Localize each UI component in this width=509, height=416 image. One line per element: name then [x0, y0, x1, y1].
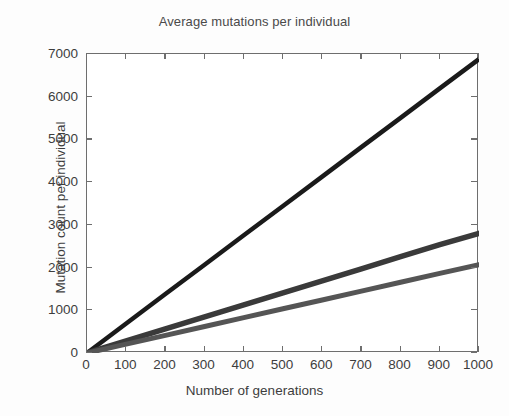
y-axis-tick-mark-right [471, 352, 477, 353]
x-axis-tick-mark [164, 346, 165, 352]
y-axis-tick-mark [86, 224, 92, 225]
plot-svg [87, 54, 479, 353]
x-axis-tick-mark [321, 346, 322, 352]
x-axis-tick-mark-top [439, 53, 440, 59]
y-axis-tick-mark [86, 267, 92, 268]
x-axis-title: Number of generations [0, 383, 509, 398]
y-axis-tick-label: 6000 [8, 88, 78, 103]
x-axis-tick-mark [360, 346, 361, 352]
series-line [87, 233, 479, 353]
x-axis-tick-mark-top [478, 53, 479, 59]
x-axis-tick-mark [439, 346, 440, 352]
y-axis-tick-label: 1000 [8, 302, 78, 317]
y-axis-tick-mark [86, 352, 92, 353]
x-axis-tick-mark [204, 346, 205, 352]
y-axis-tick-label: 3000 [8, 216, 78, 231]
y-axis-title: Mutation count per individual [53, 78, 68, 338]
y-axis-tick-mark-right [471, 53, 477, 54]
x-axis-tick-mark-top [164, 53, 165, 59]
y-axis-tick-mark-right [471, 224, 477, 225]
x-axis-tick-mark [400, 346, 401, 352]
y-axis-tick-mark-right [471, 96, 477, 97]
x-axis-tick-mark [125, 346, 126, 352]
y-axis-tick-mark-right [471, 138, 477, 139]
x-axis-tick-mark-top [204, 53, 205, 59]
x-axis-tick-mark-top [86, 53, 87, 59]
y-axis-tick-mark [86, 309, 92, 310]
x-axis-tick-mark-top [125, 53, 126, 59]
y-axis-tick-mark-right [471, 309, 477, 310]
x-axis-tick-mark [282, 346, 283, 352]
x-axis-tick-mark-top [400, 53, 401, 59]
y-axis-tick-mark [86, 138, 92, 139]
x-axis-tick-mark [478, 346, 479, 352]
x-axis-tick-mark [243, 346, 244, 352]
x-axis-tick-mark-top [282, 53, 283, 59]
y-axis-tick-label: 2000 [8, 259, 78, 274]
y-axis-tick-label: 5000 [8, 131, 78, 146]
x-axis-tick-label: 1000 [448, 357, 508, 372]
y-axis-tick-mark [86, 181, 92, 182]
chart-figure: Average mutations per individual Mutatio… [0, 0, 509, 416]
series-group [87, 59, 479, 353]
y-axis-tick-mark-right [471, 181, 477, 182]
x-axis-tick-mark-top [360, 53, 361, 59]
x-axis-tick-mark [86, 346, 87, 352]
y-axis-tick-mark-right [471, 267, 477, 268]
x-axis-tick-mark-top [243, 53, 244, 59]
y-axis-tick-label: 7000 [8, 46, 78, 61]
x-axis-tick-mark-top [321, 53, 322, 59]
y-axis-tick-label: 4000 [8, 174, 78, 189]
chart-title: Average mutations per individual [0, 14, 509, 29]
y-axis-tick-mark [86, 96, 92, 97]
plot-area [86, 53, 478, 352]
